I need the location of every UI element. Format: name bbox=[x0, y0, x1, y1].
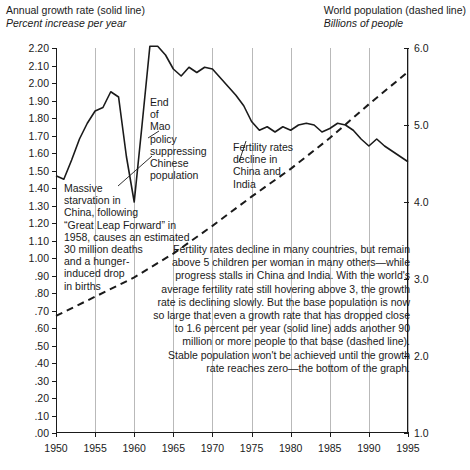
x-tick-label: 1970 bbox=[192, 443, 232, 454]
left-tick-label: .70 bbox=[34, 306, 49, 317]
bottom-tick bbox=[291, 432, 292, 437]
left-tick-label: .40 bbox=[34, 358, 49, 369]
left-tick bbox=[52, 223, 57, 224]
left-tick bbox=[52, 363, 57, 364]
left-tick bbox=[52, 328, 57, 329]
right-tick-label: 3.0 bbox=[414, 274, 429, 285]
left-tick bbox=[52, 136, 57, 137]
left-axis-title-line1: Annual growth rate (solid line) bbox=[6, 4, 145, 17]
gridline bbox=[408, 48, 409, 433]
left-tick-label: .60 bbox=[34, 323, 49, 334]
right-tick-label: 4.0 bbox=[414, 197, 429, 208]
left-tick bbox=[52, 101, 57, 102]
left-tick bbox=[52, 241, 57, 242]
left-tick-label: .90 bbox=[34, 271, 49, 282]
x-tick-label: 1990 bbox=[349, 443, 389, 454]
gridline bbox=[291, 48, 292, 433]
left-tick bbox=[52, 381, 57, 382]
right-axis-title-line1: World population (dashed line) bbox=[324, 4, 466, 17]
bottom-tick bbox=[369, 432, 370, 437]
annotation-paragraph: Fertility rates decline in many countrie… bbox=[152, 243, 410, 375]
left-tick-label: .00 bbox=[34, 428, 49, 439]
left-tick bbox=[52, 188, 57, 189]
left-tick-label: 2.00 bbox=[29, 78, 49, 89]
left-tick bbox=[52, 83, 57, 84]
right-axis-title: World population (dashed line) Billions … bbox=[324, 4, 466, 29]
left-tick bbox=[52, 258, 57, 259]
left-tick-label: 2.10 bbox=[29, 61, 49, 72]
bottom-tick bbox=[252, 432, 253, 437]
left-tick-label: 1.30 bbox=[29, 201, 49, 212]
left-tick bbox=[52, 153, 57, 154]
left-tick-label: .50 bbox=[34, 341, 49, 352]
left-tick-label: 1.40 bbox=[29, 183, 49, 194]
bottom-tick bbox=[212, 432, 213, 437]
bottom-tick bbox=[134, 432, 135, 437]
chart-figure: Annual growth rate (solid line) Percent … bbox=[0, 0, 470, 470]
x-tick-label: 1960 bbox=[114, 443, 154, 454]
gridline bbox=[212, 48, 213, 433]
left-tick bbox=[52, 118, 57, 119]
left-tick-label: 1.90 bbox=[29, 96, 49, 107]
left-tick bbox=[52, 311, 57, 312]
right-tick bbox=[404, 202, 409, 203]
x-tick-label: 1980 bbox=[271, 443, 311, 454]
right-axis-title-line2: Billions of people bbox=[324, 17, 466, 30]
gridline bbox=[252, 48, 253, 433]
left-tick-label: 1.70 bbox=[29, 131, 49, 142]
left-axis-title-line2: Percent increase per year bbox=[6, 17, 145, 30]
x-tick-label: 1965 bbox=[153, 443, 193, 454]
right-tick-label: 5.0 bbox=[414, 120, 429, 131]
right-tick bbox=[404, 48, 409, 49]
annotation-mao: End of Mao policy suppressing Chinese po… bbox=[150, 96, 207, 181]
left-tick-label: 1.00 bbox=[29, 253, 49, 264]
bottom-tick bbox=[173, 432, 174, 437]
bottom-axis-line bbox=[56, 432, 408, 433]
gridline bbox=[369, 48, 370, 433]
right-tick-label: 6.0 bbox=[414, 43, 429, 54]
left-tick-label: 1.80 bbox=[29, 113, 49, 124]
annotation-fertility: Fertility rates decline in China and Ind… bbox=[233, 141, 293, 190]
left-axis-title: Annual growth rate (solid line) Percent … bbox=[6, 4, 145, 29]
left-tick bbox=[52, 398, 57, 399]
x-tick-label: 1975 bbox=[232, 443, 272, 454]
bottom-tick bbox=[95, 432, 96, 437]
left-tick bbox=[52, 206, 57, 207]
left-tick-label: .20 bbox=[34, 393, 49, 404]
left-tick bbox=[52, 276, 57, 277]
right-tick-label: 1.0 bbox=[414, 428, 429, 439]
x-tick-label: 1955 bbox=[75, 443, 115, 454]
left-tick-label: 1.10 bbox=[29, 236, 49, 247]
left-tick-label: 1.20 bbox=[29, 218, 49, 229]
x-tick-label: 1950 bbox=[36, 443, 76, 454]
left-tick bbox=[52, 66, 57, 67]
left-tick-label: .80 bbox=[34, 288, 49, 299]
left-tick bbox=[52, 293, 57, 294]
left-tick-label: .10 bbox=[34, 411, 49, 422]
bottom-tick bbox=[408, 432, 409, 437]
left-tick-label: 1.60 bbox=[29, 148, 49, 159]
left-tick-label: 1.50 bbox=[29, 166, 49, 177]
x-tick-label: 1995 bbox=[388, 443, 428, 454]
right-tick-label: 2.0 bbox=[414, 351, 429, 362]
bottom-tick bbox=[56, 432, 57, 437]
left-tick bbox=[52, 48, 57, 49]
right-tick bbox=[404, 125, 409, 126]
x-tick-label: 1985 bbox=[310, 443, 350, 454]
bottom-tick bbox=[330, 432, 331, 437]
left-tick-label: 2.20 bbox=[29, 43, 49, 54]
gridline bbox=[330, 48, 331, 433]
left-tick bbox=[52, 346, 57, 347]
left-tick bbox=[52, 171, 57, 172]
left-tick-label: .30 bbox=[34, 376, 49, 387]
left-tick bbox=[52, 416, 57, 417]
